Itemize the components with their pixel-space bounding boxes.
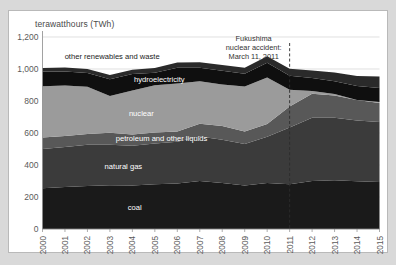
x-tick-label: 2012	[308, 236, 317, 254]
x-tick-label: 2014	[353, 236, 362, 254]
fukushima-annotation-line: nuclear accident:	[226, 43, 282, 52]
series-label-nuclear: nuclear	[129, 109, 154, 118]
chart-card: terawatthours (TWh) 02004006008001,0001,…	[8, 10, 388, 253]
y-tick-label: 200	[24, 192, 38, 202]
y-tick-label: 400	[24, 160, 38, 170]
x-tick-label: 2015	[376, 236, 385, 254]
x-tick-label: 2002	[83, 236, 92, 254]
x-tick-label: 2011	[286, 236, 295, 254]
series-label-coal: coal	[128, 203, 142, 212]
x-tick-label: 2008	[218, 236, 227, 254]
y-tick-label: 0	[34, 224, 39, 234]
y-tick-label: 800	[24, 96, 38, 106]
x-tick-label: 2004	[128, 236, 137, 254]
x-tick-label: 2010	[263, 236, 272, 254]
stacked-area-chart: 02004006008001,0001,200 2000200120022003…	[9, 11, 389, 254]
x-tick-label: 2009	[241, 236, 250, 254]
x-tick-label: 2013	[331, 236, 340, 254]
y-tick-label: 1,200	[17, 32, 39, 42]
annotation-labels-group: Fukushimanuclear accident:March 11, 2011	[226, 34, 282, 61]
x-tick-label: 2005	[151, 236, 160, 254]
series-label-natural-gas: natural gas	[105, 162, 143, 171]
y-tick-label: 1,000	[17, 64, 39, 74]
area-series-coal	[43, 180, 380, 229]
x-tick-label: 2006	[173, 236, 182, 254]
y-axis-ticks: 02004006008001,0001,200	[17, 32, 39, 234]
fukushima-annotation-line: March 11, 2011	[229, 52, 279, 61]
series-label-petroleum-and-other-liquids: petroleum and other liquids	[116, 134, 208, 143]
x-tick-label: 2003	[106, 236, 115, 254]
x-tick-label: 2007	[196, 236, 205, 254]
x-tick-label: 2001	[61, 236, 70, 254]
series-label-hydroelectricity: hydroelectricity	[134, 75, 185, 84]
series-label-other-renewables-and-waste: other renewables and waste	[65, 52, 160, 61]
y-tick-label: 600	[24, 128, 38, 138]
fukushima-annotation-line: Fukushima	[236, 34, 273, 43]
x-tick-label: 2000	[39, 236, 48, 254]
x-axis-ticks: 2000200120022003200420052006200720082009…	[39, 229, 385, 254]
area-series-group	[43, 56, 380, 229]
